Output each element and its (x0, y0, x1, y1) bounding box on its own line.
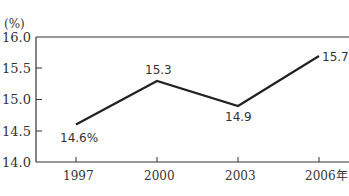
data-series-line (76, 56, 319, 125)
x-axis-ticks (76, 157, 319, 162)
x-tick-2003: 2003 (225, 169, 256, 183)
line-chart: (%) 16.0 15.5 15.0 14.5 14.0 1997 2000 2… (0, 0, 349, 196)
data-label-2003: 14.9 (225, 110, 252, 124)
x-tick-2006: 2006年 (305, 169, 348, 183)
data-label-2006: 15.7 (322, 50, 349, 64)
y-tick-15-5: 15.5 (2, 61, 31, 76)
y-tick-14-0: 14.0 (2, 155, 31, 170)
y-axis-unit-label: (%) (4, 17, 25, 31)
y-tick-14-5: 14.5 (2, 124, 31, 139)
y-axis-ticks (36, 68, 42, 131)
x-tick-2000: 2000 (144, 169, 175, 183)
data-label-1997: 14.6% (60, 131, 98, 145)
y-tick-15-0: 15.0 (2, 92, 31, 107)
x-tick-1997: 1997 (63, 169, 94, 183)
y-tick-16-0: 16.0 (2, 30, 31, 45)
data-label-2000: 15.3 (145, 63, 172, 77)
